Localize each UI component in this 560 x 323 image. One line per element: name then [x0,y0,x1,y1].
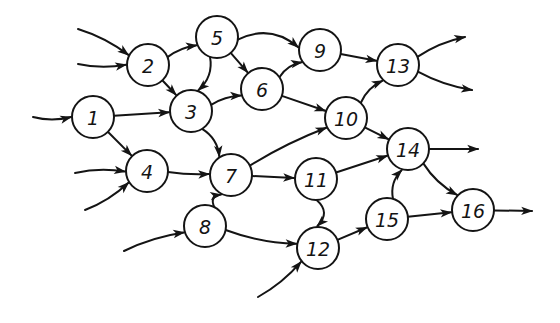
edge-5-to-6 [231,53,248,73]
node-12: 12 [297,227,339,269]
input-edge-to-2 [78,29,128,55]
edge-8-to-7 [213,195,221,208]
input-edge-to-12 [258,262,301,297]
edge-2-to-3 [162,80,176,95]
node-label: 9 [314,40,326,62]
node-13: 13 [377,44,419,86]
node-2: 2 [127,44,169,86]
edge-6-to-10 [282,96,325,111]
node-15: 15 [366,198,408,240]
edge-12-to-15 [337,228,366,240]
node-1: 1 [72,96,114,138]
node-14: 14 [387,128,429,170]
edges-layer [33,29,532,297]
node-label: 15 [375,209,399,231]
node-label: 14 [396,139,420,161]
node-label: 16 [461,200,485,222]
edge-14-to-16 [423,163,457,195]
edge-6-to-9 [279,62,301,77]
output-edge-from-16 [494,210,532,211]
node-6: 6 [241,68,283,110]
node-label: 12 [306,238,330,260]
edge-11-to-12 [317,200,324,226]
node-label: 13 [386,55,410,77]
node-label: 3 [185,101,197,123]
edge-2-to-5 [168,45,197,57]
node-label: 2 [142,55,154,77]
input-edge-to-1 [33,117,71,120]
edge-1-to-3 [114,112,169,115]
node-8: 8 [184,205,226,247]
directed-graph: 12345678910111213141516 [0,0,560,323]
input-edge-to-2 [78,64,126,67]
input-edge-to-8 [124,233,184,252]
node-label: 1 [87,107,99,129]
input-edge-to-4 [85,183,128,210]
node-label: 6 [256,79,268,101]
output-edge-from-13 [418,72,472,90]
node-10: 10 [325,97,367,139]
input-edge-to-4 [75,170,125,173]
edge-4-to-7 [168,172,209,174]
node-4: 4 [126,150,168,192]
node-9: 9 [299,29,341,71]
edge-3-to-6 [211,96,241,105]
node-label: 10 [334,108,358,130]
edge-8-to-12 [226,230,297,244]
node-label: 8 [199,216,211,238]
node-11: 11 [295,158,337,200]
edge-10-to-14 [365,127,389,139]
node-label: 7 [225,165,237,187]
edge-11-to-14 [336,156,387,173]
node-16: 16 [452,189,494,231]
node-3: 3 [170,90,212,132]
edge-7-to-11 [252,176,294,178]
edge-1-to-4 [108,132,132,156]
node-label: 5 [211,27,223,49]
node-5: 5 [196,16,238,58]
output-edge-from-13 [417,37,465,57]
nodes-layer: 12345678910111213141516 [72,16,494,269]
edge-9-to-13 [341,54,377,61]
node-label: 11 [304,169,328,191]
node-label: 4 [141,161,153,183]
edge-5-to-9 [238,33,298,47]
edge-10-to-13 [361,81,383,103]
edge-5-to-3 [198,57,210,90]
edge-3-to-7 [202,129,219,157]
edge-15-to-16 [408,212,451,217]
edge-15-to-14 [392,170,401,199]
node-7: 7 [210,154,252,196]
